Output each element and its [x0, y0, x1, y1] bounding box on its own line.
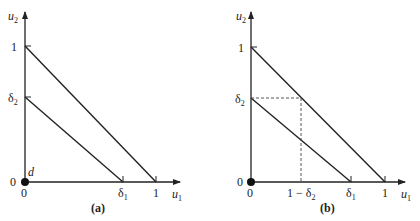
- panel-a: u2 1 δ2 0 d 0 δ1 1 u1 (a): [8, 9, 182, 215]
- x-tick-delta1: δ1: [118, 186, 128, 202]
- origin-dot: [247, 178, 255, 186]
- x-axis-label: u1: [401, 187, 411, 203]
- y-tick-0: 0: [237, 175, 243, 189]
- inner-delta-line: [25, 97, 123, 182]
- panel-b: u2 1 δ2 0 0 1 − δ2 δ1 1 u1 (b): [235, 9, 411, 215]
- x-tick-0: 0: [247, 186, 253, 200]
- panel-caption-b: (b): [320, 201, 335, 215]
- disagreement-point-dot: [21, 178, 29, 186]
- point-d-label: d: [28, 165, 35, 179]
- y-tick-1: 1: [11, 40, 17, 54]
- diagram-canvas: u2 1 δ2 0 d 0 δ1 1 u1 (a) u2 1 δ2: [0, 0, 420, 221]
- y-axis-label: u2: [236, 9, 246, 25]
- x-axis-label: u1: [172, 187, 182, 203]
- x-tick-delta1: δ1: [346, 186, 356, 202]
- x-tick-1: 1: [382, 186, 388, 200]
- y-tick-delta2: δ2: [235, 92, 245, 108]
- y-tick-0: 0: [10, 175, 16, 189]
- x-tick-1-minus-delta2: 1 − δ2: [287, 186, 315, 202]
- y-axis-label: u2: [8, 9, 18, 25]
- x-tick-0: 0: [21, 186, 27, 200]
- panel-caption-a: (a): [91, 201, 105, 215]
- y-tick-1: 1: [238, 41, 244, 55]
- y-tick-delta2: δ2: [8, 91, 18, 107]
- x-tick-1: 1: [153, 186, 159, 200]
